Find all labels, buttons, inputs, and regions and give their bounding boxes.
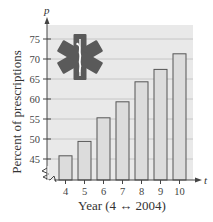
x-tick-label: 10 (174, 186, 185, 197)
y-variable-label: p (43, 4, 50, 16)
bar (78, 141, 91, 180)
x-variable-label: t (204, 174, 208, 186)
y-tick-label: 70 (30, 54, 41, 65)
x-tick-label: 4 (63, 186, 69, 197)
x-tick-label: 5 (82, 186, 87, 197)
bar-chart: 45505560657075 45678910 p t Percent of p… (0, 0, 213, 222)
bar (173, 54, 186, 180)
bar (116, 102, 129, 180)
x-tick-labels: 45678910 (63, 180, 185, 197)
x-tick-label: 9 (158, 186, 163, 197)
y-tick-label: 45 (30, 154, 41, 165)
y-tick-label: 50 (30, 134, 41, 145)
bar (154, 69, 167, 180)
bar (59, 156, 72, 180)
x-axis-title: Year (4 ↔ 2004) (78, 198, 166, 213)
x-tick-label: 6 (101, 186, 106, 197)
y-tick-label: 55 (30, 114, 41, 125)
y-axis-title: Percent of prescriptions (9, 50, 24, 173)
y-tick-label: 60 (30, 94, 41, 105)
y-tick-label: 75 (30, 34, 41, 45)
y-axis-arrow-icon (45, 17, 50, 24)
bar (135, 82, 148, 180)
x-axis-arrow-icon (195, 178, 202, 183)
x-tick-label: 8 (139, 186, 144, 197)
y-tick-label: 65 (30, 74, 41, 85)
bar (97, 118, 110, 180)
x-tick-label: 7 (120, 186, 125, 197)
